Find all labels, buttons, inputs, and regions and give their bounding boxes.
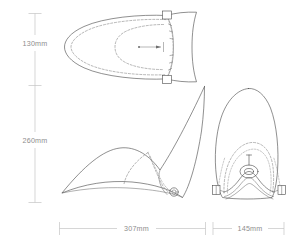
top-view-center-leader	[138, 42, 164, 52]
top-view	[65, 11, 197, 84]
front-view-strap-tail-right	[274, 157, 281, 186]
dimension-label-height-lower: 260mm	[23, 136, 48, 145]
top-view-tail-stitch	[168, 19, 174, 77]
side-view-tail-crescent	[62, 188, 183, 198]
leader-arrowhead	[156, 45, 161, 48]
top-view-fitting-upper	[163, 11, 172, 19]
dimension-width-front: 145mm	[213, 222, 284, 235]
horizontal-dimension-group: 307mm 145mm	[60, 222, 285, 235]
side-view-hidden-structure	[124, 153, 148, 185]
side-view	[62, 87, 205, 198]
dimension-label-width-front: 145mm	[238, 224, 263, 233]
side-view-outline	[62, 87, 205, 198]
top-view-fitting-lower	[163, 76, 172, 84]
dimension-height-upper: 130mm	[23, 14, 48, 86]
front-view-skirt	[226, 184, 273, 200]
technical-drawing-sheet: 130mm 260mm 307mm	[0, 0, 295, 247]
side-view-panel-fold	[159, 170, 167, 195]
leader-dot	[138, 46, 140, 48]
dimension-width-main: 307mm	[60, 222, 206, 235]
dimension-label-height-upper: 130mm	[23, 39, 48, 48]
front-view-strap-tail-left	[219, 157, 226, 186]
top-view-tail-flare	[167, 12, 197, 82]
drawing-canvas: 130mm 260mm 307mm	[0, 0, 295, 247]
vertical-dimension-group: 130mm 260mm	[23, 14, 48, 203]
side-view-eyelet	[170, 188, 178, 196]
front-view-bracket-lower-edge	[225, 178, 274, 197]
dimension-height-lower: 260mm	[23, 86, 48, 203]
dimension-label-width-main: 307mm	[124, 224, 149, 233]
front-view	[213, 88, 286, 199]
